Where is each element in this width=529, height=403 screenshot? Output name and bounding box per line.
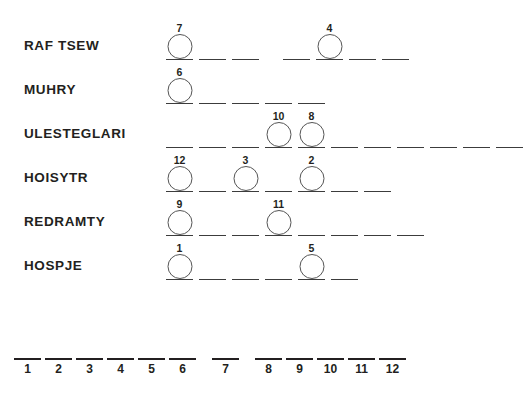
solution-slot[interactable]: 5 <box>138 358 165 375</box>
solution-slot-rule <box>212 358 239 360</box>
clue-label: ULESTEGLARI <box>24 126 126 141</box>
letter-slot[interactable] <box>199 158 226 192</box>
slot-circle <box>266 210 291 235</box>
solution-slot[interactable]: 2 <box>45 358 72 375</box>
letter-slot[interactable] <box>199 202 226 236</box>
letter-slot[interactable] <box>199 70 226 104</box>
solution-slot-rule <box>255 358 282 360</box>
letter-slot[interactable] <box>331 202 358 236</box>
answer-word: 108 <box>166 114 523 148</box>
slot-rule <box>316 59 343 61</box>
slot-rule <box>166 191 193 193</box>
slot-number-label: 10 <box>273 111 285 122</box>
slot-rule <box>199 103 226 105</box>
solution-slot-rule <box>138 358 165 360</box>
slot-rule <box>232 191 259 193</box>
solution-slot[interactable]: 10 <box>317 358 344 375</box>
solution-slot[interactable]: 12 <box>379 358 406 375</box>
letter-slot[interactable] <box>298 70 325 104</box>
slot-number-label: 9 <box>177 199 183 210</box>
solution-slot[interactable]: 1 <box>14 358 41 375</box>
answer-word: 15 <box>166 246 358 280</box>
letter-slot[interactable] <box>298 202 325 236</box>
letter-slot[interactable] <box>265 70 292 104</box>
letter-slot-keyed[interactable]: 3 <box>232 158 259 192</box>
letter-slot[interactable] <box>397 202 424 236</box>
letter-slot[interactable] <box>463 114 490 148</box>
letter-slot-keyed[interactable]: 5 <box>298 246 325 280</box>
letter-slot[interactable] <box>199 246 226 280</box>
solution-slot[interactable]: 11 <box>348 358 375 375</box>
clue-row: HOSPJE15 <box>0 242 529 288</box>
answer-area: 108 <box>166 110 529 156</box>
letter-slot[interactable] <box>364 114 391 148</box>
letter-slot-keyed[interactable]: 8 <box>298 114 325 148</box>
slot-rule <box>331 147 358 149</box>
letter-slot[interactable] <box>430 114 457 148</box>
letter-slot-keyed[interactable]: 6 <box>166 70 193 104</box>
slot-rule <box>430 147 457 149</box>
letter-slot-keyed[interactable]: 1 <box>166 246 193 280</box>
letter-slot[interactable] <box>265 158 292 192</box>
solution-slot[interactable]: 9 <box>286 358 313 375</box>
slot-rule <box>232 103 259 105</box>
letter-slot[interactable] <box>496 114 523 148</box>
solution-slot[interactable]: 4 <box>107 358 134 375</box>
slot-rule <box>331 235 358 237</box>
answer-area: 1232 <box>166 154 529 200</box>
letter-slot[interactable] <box>232 26 259 60</box>
letter-slot[interactable] <box>232 70 259 104</box>
letter-slot[interactable] <box>331 158 358 192</box>
slot-rule <box>265 147 292 149</box>
letter-slot[interactable] <box>199 114 226 148</box>
clue-label: HOSPJE <box>24 258 82 273</box>
solution-slot[interactable]: 6 <box>169 358 196 375</box>
slot-rule <box>199 235 226 237</box>
slot-rule <box>298 279 325 281</box>
answer-area: 911 <box>166 198 529 244</box>
letter-slot[interactable] <box>232 246 259 280</box>
letter-slot[interactable] <box>232 114 259 148</box>
slot-number-label: 8 <box>309 111 315 122</box>
slot-rule <box>265 235 292 237</box>
letter-slot-keyed[interactable]: 9 <box>166 202 193 236</box>
letter-slot[interactable] <box>382 26 409 60</box>
letter-slot[interactable] <box>364 202 391 236</box>
slot-rule <box>199 191 226 193</box>
letter-slot-keyed[interactable]: 11 <box>265 202 292 236</box>
solution-slot[interactable]: 7 <box>212 358 239 375</box>
letter-slot[interactable] <box>166 114 193 148</box>
letter-slot[interactable] <box>349 26 376 60</box>
answer-area: 15 <box>166 242 529 288</box>
slot-rule <box>232 235 259 237</box>
letter-slot-keyed[interactable]: 7 <box>166 26 193 60</box>
slot-number-label: 12 <box>174 155 186 166</box>
slot-rule <box>298 235 325 237</box>
clue-label: HOISYTR <box>24 170 88 185</box>
solution-slot[interactable]: 3 <box>76 358 103 375</box>
slot-rule <box>232 279 259 281</box>
solution-slot-rule <box>14 358 41 360</box>
answer-area: 74 <box>166 22 529 68</box>
slot-circle <box>167 210 192 235</box>
slot-circle <box>233 166 258 191</box>
letter-slot-keyed[interactable]: 10 <box>265 114 292 148</box>
letter-slot[interactable] <box>331 246 358 280</box>
letter-slot[interactable] <box>364 158 391 192</box>
letter-slot[interactable] <box>397 114 424 148</box>
solution-slot-number: 11 <box>348 363 375 375</box>
letter-slot[interactable] <box>331 114 358 148</box>
letter-slot[interactable] <box>265 246 292 280</box>
letter-slot[interactable] <box>283 26 310 60</box>
slot-rule <box>496 147 523 149</box>
slot-circle <box>167 34 192 59</box>
clue-row: REDRAMTY911 <box>0 198 529 244</box>
letter-slot-keyed[interactable]: 2 <box>298 158 325 192</box>
slot-rule <box>265 191 292 193</box>
letter-slot-keyed[interactable]: 12 <box>166 158 193 192</box>
letter-slot-keyed[interactable]: 4 <box>316 26 343 60</box>
solution-slot[interactable]: 8 <box>255 358 282 375</box>
slot-number-label: 11 <box>273 199 284 210</box>
letter-slot[interactable] <box>232 202 259 236</box>
letter-slot[interactable] <box>199 26 226 60</box>
